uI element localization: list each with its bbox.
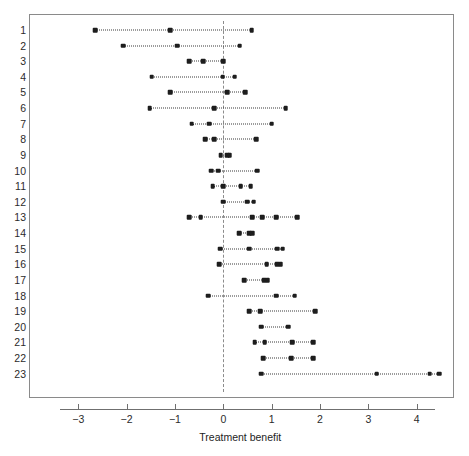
data-point (283, 106, 288, 111)
x-tick-6 (368, 404, 369, 409)
row-label-6: 6 (2, 103, 26, 114)
data-point (279, 262, 284, 267)
data-point (311, 356, 316, 361)
row-label-11: 11 (2, 181, 26, 192)
row-label-20: 20 (2, 322, 26, 333)
data-point (265, 278, 270, 283)
x-tick-label-1: −2 (121, 413, 133, 425)
row-label-4: 4 (2, 72, 26, 83)
data-point (293, 293, 298, 298)
x-axis-line (60, 409, 434, 410)
interval-line (213, 186, 251, 187)
row-label-3: 3 (2, 56, 26, 67)
data-point (265, 262, 270, 267)
x-tick-1 (127, 404, 128, 409)
data-point (437, 371, 442, 376)
data-point (260, 215, 265, 220)
data-point (247, 309, 252, 314)
data-point (225, 90, 230, 95)
interval-line (261, 373, 438, 374)
row-label-14: 14 (2, 228, 26, 239)
data-point (250, 215, 255, 220)
data-point (168, 28, 173, 33)
data-point (216, 168, 221, 173)
data-point (280, 246, 285, 251)
row-label-5: 5 (2, 87, 26, 98)
data-point (259, 371, 264, 376)
row-label-8: 8 (2, 134, 26, 145)
data-point (212, 137, 217, 142)
data-point (269, 121, 274, 126)
row-label-7: 7 (2, 118, 26, 129)
data-point (212, 106, 217, 111)
row-label-17: 17 (2, 275, 26, 286)
x-tick-label-4: 1 (269, 413, 275, 425)
data-point (206, 293, 211, 298)
data-point (237, 231, 242, 236)
plot-panel (29, 14, 454, 398)
x-tick-4 (272, 404, 273, 409)
data-point (221, 75, 226, 80)
data-point (217, 262, 222, 267)
x-tick-label-2: −1 (169, 413, 181, 425)
data-point (121, 43, 126, 48)
x-tick-label-6: 3 (365, 413, 371, 425)
data-point (209, 168, 214, 173)
data-point (221, 184, 226, 189)
data-point (263, 340, 268, 345)
data-point (237, 43, 242, 48)
data-point (261, 356, 266, 361)
data-point (227, 153, 232, 158)
data-point (218, 246, 223, 251)
interval-line (95, 30, 252, 31)
x-tick-label-5: 2 (317, 413, 323, 425)
data-point (254, 137, 259, 142)
x-tick-label-7: 4 (414, 413, 420, 425)
data-point (427, 371, 432, 376)
interval-line (219, 264, 280, 265)
data-point (290, 340, 295, 345)
data-point (187, 215, 192, 220)
interval-line (261, 326, 288, 327)
data-point (374, 371, 379, 376)
data-point (252, 340, 257, 345)
interval-line (192, 123, 272, 124)
data-point (233, 75, 238, 80)
data-point (289, 356, 294, 361)
forest-plot-figure: 1234567891011121314151617181920212223 −3… (0, 0, 469, 456)
data-point (238, 184, 243, 189)
data-point (203, 137, 208, 142)
data-point (207, 121, 212, 126)
row-label-12: 12 (2, 197, 26, 208)
interval-line (150, 108, 286, 109)
interval-line (189, 217, 297, 218)
data-point (149, 75, 154, 80)
data-point (275, 246, 280, 251)
data-point (311, 340, 316, 345)
data-point (251, 200, 256, 205)
data-point (168, 90, 173, 95)
row-label-1: 1 (2, 25, 26, 36)
interval-line (189, 61, 223, 62)
row-label-2: 2 (2, 40, 26, 51)
data-point (242, 278, 247, 283)
x-axis-title: Treatment benefit (199, 431, 281, 443)
x-tick-label-3: 0 (220, 413, 226, 425)
row-label-15: 15 (2, 243, 26, 254)
data-point (250, 28, 255, 33)
data-point (187, 59, 192, 64)
data-point (259, 324, 264, 329)
row-label-18: 18 (2, 290, 26, 301)
row-label-19: 19 (2, 306, 26, 317)
row-label-column: 1234567891011121314151617181920212223 (0, 0, 26, 456)
row-label-9: 9 (2, 150, 26, 161)
row-label-22: 22 (2, 353, 26, 364)
data-point (221, 200, 226, 205)
x-tick-5 (320, 404, 321, 409)
x-tick-0 (78, 404, 79, 409)
x-tick-2 (175, 404, 176, 409)
data-point (258, 309, 263, 314)
row-label-23: 23 (2, 368, 26, 379)
data-point (274, 215, 279, 220)
row-label-21: 21 (2, 337, 26, 348)
